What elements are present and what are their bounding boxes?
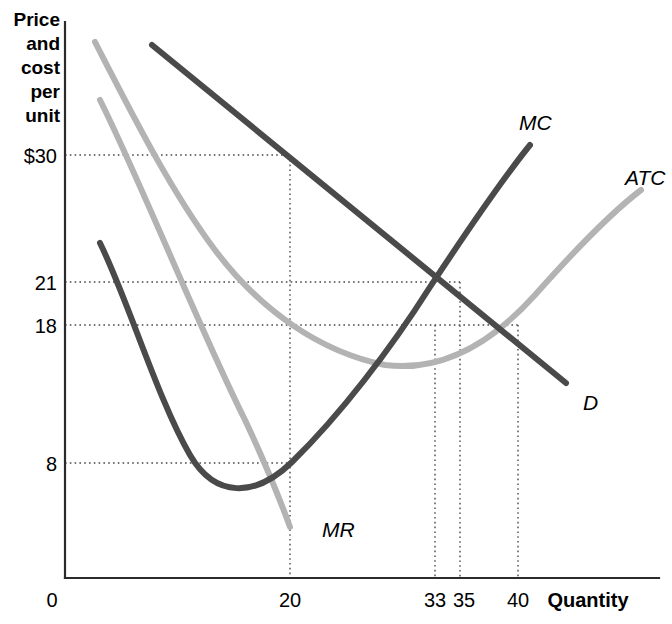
curve-atc — [95, 42, 641, 366]
y-axis-title-line-2: and — [4, 32, 60, 56]
y-tick-label-8: 8 — [46, 453, 57, 475]
x-tick-label-33: 33 — [424, 589, 446, 611]
y-axis-title-line-3: cost — [4, 56, 60, 80]
y-tick-label-21: 21 — [35, 272, 57, 294]
curve-label-atc: ATC — [623, 166, 666, 189]
y-tick-label-30: $30 — [24, 145, 57, 167]
x-tick-label-40: 40 — [507, 589, 529, 611]
economics-cost-curve-figure: Price and cost per unit $30 21 18 8 — [0, 0, 672, 624]
y-tick-label-18: 18 — [35, 315, 57, 337]
x-axis-title: Quantity — [547, 589, 629, 611]
y-axis-title: Price and cost per unit — [4, 8, 60, 128]
curve-mc — [100, 145, 530, 488]
x-tick-label-35: 35 — [453, 589, 475, 611]
curve-d — [152, 45, 566, 383]
chart-canvas: $30 21 18 8 0 20 33 35 40 Quantity MC AT… — [0, 0, 672, 624]
y-axis-title-line-5: unit — [4, 104, 60, 128]
curve-label-d: D — [583, 391, 598, 414]
x-tick-label-20: 20 — [279, 589, 301, 611]
y-axis-title-line-4: per — [4, 80, 60, 104]
x-axis-origin-label: 0 — [46, 589, 57, 611]
curve-label-mr: MR — [322, 518, 355, 541]
curve-label-mc: MC — [519, 111, 552, 134]
y-axis-title-line-1: Price — [4, 8, 60, 32]
